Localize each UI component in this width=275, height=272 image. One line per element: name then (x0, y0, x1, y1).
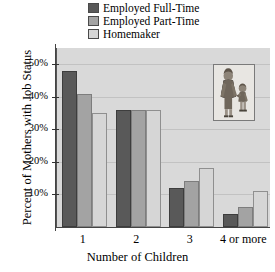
y-axis-line (55, 44, 56, 231)
bar (146, 110, 161, 227)
x-tick-label: 2 (110, 232, 164, 247)
y-tick-10 (52, 194, 59, 195)
legend-swatch-employed-part-time (88, 16, 99, 26)
legend-swatch-homemaker (88, 29, 99, 39)
y-tick-20 (52, 162, 59, 163)
bar (77, 94, 92, 227)
y-tick-50 (52, 64, 59, 65)
chart-figure: Employed Full-Time Employed Part-Time Ho… (0, 0, 275, 272)
bar (92, 113, 107, 227)
x-tick-label: 4 or more (217, 232, 271, 247)
legend-item-employed-part-time: Employed Part-Time (88, 15, 199, 27)
legend-label-employed-part-time: Employed Part-Time (103, 16, 199, 27)
bar (223, 214, 238, 227)
legend-label-homemaker: Homemaker (103, 29, 160, 40)
x-axis-line (55, 227, 270, 228)
y-axis-title: Percent of Mothers with Job Status (20, 48, 35, 228)
x-axis-title: Number of Children (0, 250, 275, 265)
legend-item-employed-full-time: Employed Full-Time (88, 2, 199, 14)
chart-legend: Employed Full-Time Employed Part-Time Ho… (88, 2, 199, 41)
bar (131, 110, 146, 227)
bar (169, 188, 184, 227)
bar (199, 168, 214, 227)
legend-swatch-employed-full-time (88, 3, 99, 13)
legend-item-homemaker: Homemaker (88, 28, 199, 40)
bar (238, 207, 253, 227)
bar-group (163, 48, 217, 227)
y-tick-40 (52, 97, 59, 98)
bar (253, 191, 268, 227)
y-tick-30 (52, 129, 59, 130)
mother-and-child-illustration (213, 64, 255, 121)
x-tick-label: 3 (163, 232, 217, 247)
bar-group (56, 48, 110, 227)
bar-group (110, 48, 164, 227)
bar (116, 110, 131, 227)
bar (184, 181, 199, 227)
legend-label-employed-full-time: Employed Full-Time (103, 3, 199, 14)
bar (62, 71, 77, 227)
x-tick-label: 1 (56, 232, 110, 247)
